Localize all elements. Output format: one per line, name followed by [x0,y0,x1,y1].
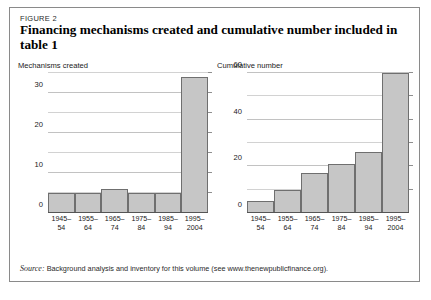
bar [101,189,128,213]
y-axis-tick-label: 10 [35,160,43,169]
bar [128,193,155,213]
bar-slot [247,73,274,213]
bar [328,164,355,213]
figure-container: FIGURE 2 Financing mechanisms created an… [9,7,420,282]
y-axis-tick [208,112,212,113]
y-axis-tick [208,72,212,73]
chart-panel-cumulative-number: Cumulative number 0204060 1945–541955–64… [217,61,415,251]
x-axis-tick-label: 1955–64 [75,215,102,232]
x-axis-tick-label: 1965–74 [301,215,328,232]
x-axis-labels-cumulative-number: 1945–541955–641965–741975–841985–941995–… [247,215,409,232]
bar [301,173,328,213]
y-axis-tick [208,132,212,133]
y-axis-tick-label: 0 [39,200,43,209]
bar-slot [181,73,208,213]
bar-slot [382,73,409,213]
x-axis-tick-label: 1975–84 [128,215,155,232]
x-axis-tick-label: 1945–54 [247,215,274,232]
y-axis-tick-label: 40 [234,106,242,115]
source-note: Source: Background analysis and inventor… [20,264,328,273]
y-axis-tick [208,192,212,193]
bar [382,73,409,213]
y-axis-tick-label: 30 [35,80,43,89]
x-axis-tick-label: 1995–2004 [382,215,409,232]
bar-slot [355,73,382,213]
bar [155,193,182,213]
x-axis-labels-mechanisms-created: 1945–541955–641965–741975–841985–941995–… [48,215,208,232]
y-axis-tick-label: 20 [234,153,242,162]
plot-area-mechanisms-created: 0102030 [48,73,208,213]
y-axis-tick [409,142,413,143]
y-axis-tick [409,95,413,96]
y-axis-tick-label: 60 [234,60,242,69]
bar-slot [101,73,128,213]
source-text: Background analysis and inventory for th… [47,264,328,273]
bar-slot [274,73,301,213]
bar-slot [48,73,75,213]
plot-area-cumulative-number: 0204060 [247,73,409,213]
x-axis-tick-label: 1955–64 [274,215,301,232]
x-axis-tick-label: 1995–2004 [181,215,208,232]
bar-group-cumulative-number [247,73,409,213]
bar-slot [328,73,355,213]
bar-group-mechanisms-created [48,73,208,213]
chart-panel-mechanisms-created: Mechanisms created 0102030 1945–541955–6… [18,61,214,251]
y-axis-tick [208,172,212,173]
y-axis-tick [409,165,413,166]
x-axis-line-mechanisms-created [48,212,208,213]
x-axis-tick-label: 1975–84 [328,215,355,232]
figure-title: Financing mechanisms created and cumulat… [20,23,400,52]
x-axis-tick-label: 1985–94 [355,215,382,232]
chart-title-cumulative-number: Cumulative number [217,61,283,70]
y-axis-tick-label: 20 [35,120,43,129]
bar-slot [301,73,328,213]
y-axis-tick [208,92,212,93]
y-axis-tick [409,189,413,190]
bar [274,190,301,213]
bar [75,193,102,213]
y-axis-tick [409,119,413,120]
bar [181,77,208,213]
x-axis-tick-label: 1965–74 [101,215,128,232]
chart-title-mechanisms-created: Mechanisms created [18,61,88,70]
y-axis-tick [208,152,212,153]
bar [355,152,382,213]
bar-slot [75,73,102,213]
source-prefix: Source: [20,264,45,273]
bar-slot [128,73,155,213]
bar-slot [155,73,182,213]
y-axis-tick-label: 0 [238,200,242,209]
x-axis-tick-label: 1945–54 [48,215,75,232]
y-axis-tick [409,72,413,73]
charts-area: Mechanisms created 0102030 1945–541955–6… [10,61,421,251]
bar [48,193,75,213]
x-axis-tick-label: 1985–94 [155,215,182,232]
x-axis-line-cumulative-number [247,212,409,213]
